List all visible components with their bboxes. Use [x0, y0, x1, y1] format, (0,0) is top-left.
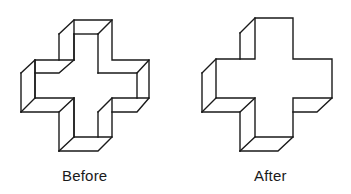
- figure-canvas: [0, 0, 351, 194]
- before-cross-drawing: [21, 20, 149, 151]
- after-cross-drawing: [202, 18, 332, 151]
- after-label: After: [254, 167, 287, 184]
- before-label: Before: [62, 167, 107, 184]
